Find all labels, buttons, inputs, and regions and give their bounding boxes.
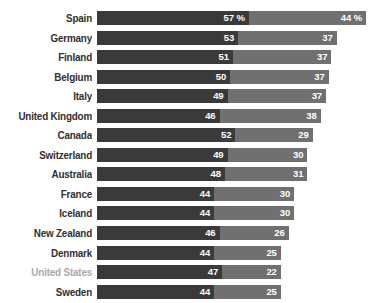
bar-segment-secondary: 37 [230, 70, 329, 84]
category-label: United Kingdom [6, 109, 92, 123]
bar-value-primary: 46 [205, 226, 215, 240]
bar-segment-primary: 44 [97, 246, 214, 260]
bar-value-secondary: 38 [306, 109, 316, 123]
bar-segment-primary: 46 [97, 226, 220, 240]
chart-row: Spain57 %44 % [0, 11, 379, 31]
bar-segment-secondary: 38 [220, 109, 321, 123]
category-label: France [6, 187, 92, 201]
category-label: Denmark [6, 246, 92, 260]
chart-row: Australia4831 [0, 167, 379, 187]
bar-value-secondary: 25 [266, 246, 276, 260]
category-label: Finland [6, 50, 92, 64]
chart-row: New Zealand4626 [0, 226, 379, 246]
bar-value-secondary: 30 [280, 206, 290, 220]
category-label: United States [6, 265, 92, 279]
bar-value-primary: 44 [200, 187, 210, 201]
bar-segment-primary: 51 [97, 50, 233, 64]
bar-segment-primary: 53 [97, 31, 238, 45]
bar-value-primary: 51 [218, 50, 228, 64]
bar-track: 4626 [97, 226, 379, 240]
bar-value-secondary: 29 [298, 128, 308, 142]
bar-value-secondary: 22 [266, 265, 276, 279]
bar-segment-primary: 49 [97, 89, 228, 103]
category-label: Sweden [6, 285, 92, 299]
category-label: Spain [6, 11, 92, 25]
bar-value-secondary: 31 [293, 167, 303, 181]
bar-segment-primary: 46 [97, 109, 220, 123]
bar-track: 5037 [97, 70, 379, 84]
bar-value-secondary: 37 [317, 50, 327, 64]
bar-track: 5137 [97, 50, 379, 64]
bar-value-primary: 49 [213, 89, 223, 103]
bar-segment-secondary: 25 [214, 285, 281, 299]
chart-row: France4430 [0, 187, 379, 207]
bar-segment-primary: 44 [97, 206, 214, 220]
bar-segment-secondary: 29 [235, 128, 312, 142]
bar-track: 4425 [97, 285, 379, 299]
bar-track: 5337 [97, 31, 379, 45]
chart-row: Denmark4425 [0, 246, 379, 266]
bar-value-secondary: 30 [280, 187, 290, 201]
chart-row: United States4722 [0, 265, 379, 285]
bar-segment-primary: 49 [97, 148, 228, 162]
bar-value-secondary: 26 [274, 226, 284, 240]
chart-row: Finland5137 [0, 50, 379, 70]
bar-segment-secondary: 37 [228, 89, 327, 103]
bar-track: 4638 [97, 109, 379, 123]
bar-segment-primary: 57 % [97, 11, 249, 25]
bar-segment-secondary: 44 % [249, 11, 366, 25]
bar-track: 57 %44 % [97, 11, 379, 25]
bar-value-secondary: 37 [322, 31, 332, 45]
bar-segment-secondary: 37 [238, 31, 337, 45]
bar-value-secondary: 30 [293, 148, 303, 162]
bar-segment-secondary: 30 [228, 148, 308, 162]
bar-track: 4930 [97, 148, 379, 162]
bar-segment-primary: 48 [97, 167, 225, 181]
category-label: New Zealand [6, 226, 92, 240]
bar-track: 4937 [97, 89, 379, 103]
bar-value-primary: 44 [200, 285, 210, 299]
bar-track: 4430 [97, 206, 379, 220]
bar-segment-primary: 47 [97, 265, 222, 279]
category-label: Australia [6, 167, 92, 181]
bar-segment-primary: 44 [97, 187, 214, 201]
bar-segment-secondary: 37 [233, 50, 332, 64]
bar-segment-secondary: 25 [214, 246, 281, 260]
bar-value-primary: 52 [221, 128, 231, 142]
chart-row: Germany5337 [0, 31, 379, 51]
bar-track: 4425 [97, 246, 379, 260]
chart-row: United Kingdom4638 [0, 109, 379, 129]
category-label: Switzerland [6, 148, 92, 162]
bar-value-primary: 46 [205, 109, 215, 123]
bar-value-primary: 53 [224, 31, 234, 45]
category-label: Canada [6, 128, 92, 142]
category-label: Germany [6, 31, 92, 45]
chart-row: Belgium5037 [0, 70, 379, 90]
bar-track: 4430 [97, 187, 379, 201]
bar-value-secondary: 37 [312, 89, 322, 103]
bar-value-primary: 48 [210, 167, 220, 181]
bar-value-primary: 44 [200, 246, 210, 260]
bar-segment-secondary: 26 [220, 226, 289, 240]
chart-row: Canada5229 [0, 128, 379, 148]
chart-row: Sweden4425 [0, 285, 379, 303]
bar-segment-primary: 52 [97, 128, 235, 142]
bar-segment-secondary: 30 [214, 187, 294, 201]
bar-value-primary: 49 [213, 148, 223, 162]
bar-track: 5229 [97, 128, 379, 142]
bar-track: 4831 [97, 167, 379, 181]
bar-segment-secondary: 30 [214, 206, 294, 220]
bar-value-primary: 57 % [224, 11, 245, 25]
bar-value-secondary: 25 [266, 285, 276, 299]
bar-value-primary: 47 [208, 265, 218, 279]
category-label: Iceland [6, 206, 92, 220]
bar-segment-primary: 50 [97, 70, 230, 84]
category-label: Italy [6, 89, 92, 103]
bar-segment-secondary: 31 [225, 167, 308, 181]
category-label: Belgium [6, 70, 92, 84]
bar-track: 4722 [97, 265, 379, 279]
chart-row: Switzerland4930 [0, 148, 379, 168]
chart-row: Italy4937 [0, 89, 379, 109]
bar-segment-secondary: 22 [222, 265, 281, 279]
